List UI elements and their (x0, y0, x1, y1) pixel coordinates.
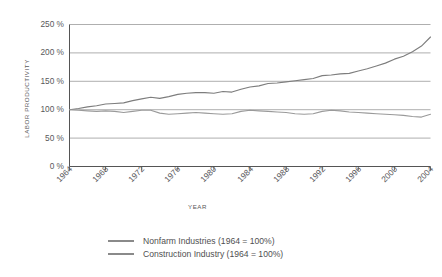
legend-swatch-icon (108, 240, 134, 242)
x-tick-label: 1976 (162, 163, 182, 183)
x-tick-label: 2000 (379, 163, 399, 183)
x-tick-label: 1984 (235, 163, 255, 183)
legend-swatch-icon (108, 253, 134, 255)
x-tick-label: 1972 (126, 163, 146, 183)
x-tick-label: 1988 (271, 163, 291, 183)
chart-figure: LABOR PRODUCTIVITY 0 %50 %100 %150 %200 … (0, 0, 442, 277)
x-tick-label: 1996 (343, 163, 363, 183)
chart-legend: Nonfarm Industries (1964 = 100%)Construc… (108, 234, 283, 260)
legend-item: Construction Industry (1964 = 100%) (108, 247, 283, 260)
legend-label: Construction Industry (1964 = 100%) (143, 249, 283, 259)
legend-item: Nonfarm Industries (1964 = 100%) (108, 234, 283, 247)
x-axis-title: YEAR (188, 203, 207, 210)
x-tick-label: 2004 (415, 163, 435, 183)
x-tick-label: 1992 (307, 163, 327, 183)
x-tick-label: 1964 (54, 163, 74, 183)
legend-label: Nonfarm Industries (1964 = 100%) (143, 236, 275, 246)
x-tick-label: 1980 (198, 163, 218, 183)
x-tick-label: 1968 (90, 163, 110, 183)
